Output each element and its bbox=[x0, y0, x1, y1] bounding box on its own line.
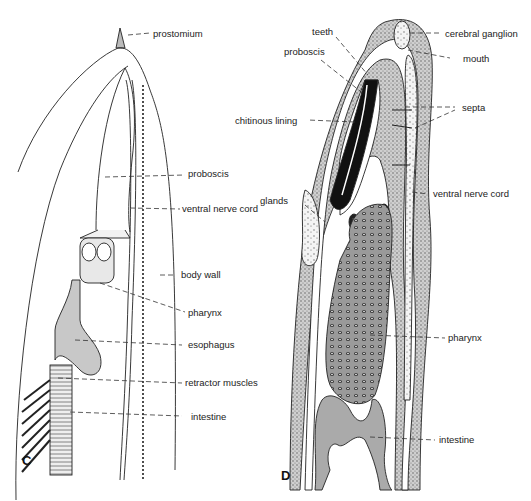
label-d-intestine: intestine bbox=[439, 434, 474, 445]
label-c-proboscis: proboscis bbox=[188, 168, 229, 179]
label-d-proboscis: proboscis bbox=[284, 46, 325, 57]
label-d-chitinous-lining: chitinous lining bbox=[235, 115, 297, 126]
anatomy-drawings bbox=[0, 0, 531, 501]
label-d-septa: septa bbox=[462, 102, 485, 113]
label-d-ventral-nerve-cord: ventral nerve cord bbox=[433, 188, 509, 199]
label-d-glands: glands bbox=[260, 195, 288, 206]
label-c-ventral-nerve-cord: ventral nerve cord bbox=[182, 203, 258, 214]
panel-d-drawing bbox=[290, 20, 455, 490]
panel-letter-d: D bbox=[281, 468, 290, 483]
label-c-retractor-muscles: retractor muscles bbox=[185, 377, 258, 388]
panel-c-drawing bbox=[16, 28, 185, 500]
label-c-intestine: intestine bbox=[191, 411, 226, 422]
label-c-esophagus: esophagus bbox=[188, 339, 234, 350]
label-d-pharynx: pharynx bbox=[448, 332, 482, 343]
label-d-cerebral-ganglion: cerebral ganglion bbox=[445, 28, 518, 39]
label-d-teeth: teeth bbox=[312, 26, 333, 37]
label-c-body-wall: body wall bbox=[181, 269, 221, 280]
label-c-prostomium: prostomium bbox=[153, 28, 203, 39]
panel-letter-c: C bbox=[22, 453, 31, 468]
label-d-mouth: mouth bbox=[463, 53, 489, 64]
label-c-pharynx: pharynx bbox=[188, 307, 222, 318]
